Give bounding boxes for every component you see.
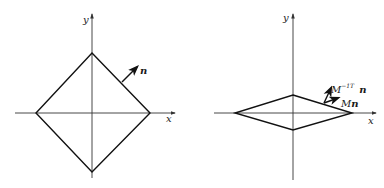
normal-label: n (140, 66, 147, 76)
mapped-normal-label: Mn (341, 94, 359, 110)
right-y-axis-label: y (283, 13, 289, 23)
left-panel (15, 14, 175, 178)
left-x-axis-label: x (166, 114, 172, 124)
right-x-axis-label: x (368, 116, 374, 126)
diagram-canvas (0, 0, 384, 188)
right-rhombus (235, 95, 352, 130)
normal-arrow-n (122, 67, 137, 82)
left-y-axis-label: y (83, 15, 89, 25)
